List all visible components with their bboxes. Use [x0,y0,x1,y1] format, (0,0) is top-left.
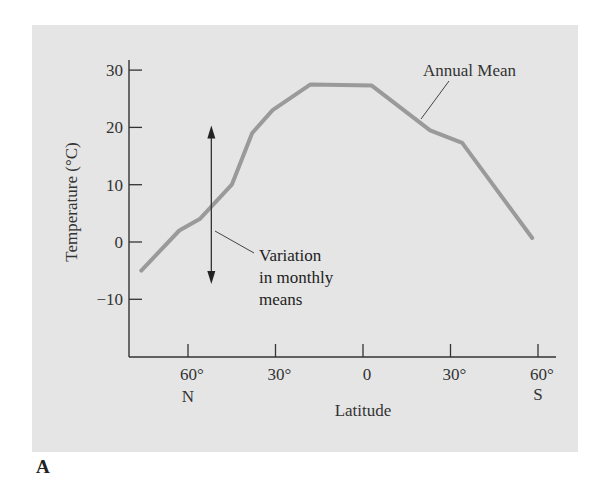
y-tick-label: 20 [106,118,123,137]
annual-mean-line [141,84,532,270]
x-tick-label: 30° [443,365,467,384]
x-axis-title: Latitude [335,401,392,420]
annual-mean-label: Annual Mean [423,61,517,80]
arrow-down-icon [207,271,215,284]
variation-label-line3: means [259,290,302,309]
y-tick-label: 10 [106,176,123,195]
x-tick-label: 30° [268,365,292,384]
y-axis-title: Temperature (°C) [62,142,81,261]
axis-ticks: 3020100−1060°30°030°60° [96,61,554,384]
arrow-up-icon [207,125,215,138]
x-tick-label: 60° [180,365,204,384]
panel-label: A [36,456,50,478]
variation-label-line1: Variation [259,246,322,265]
axes [129,60,556,357]
y-tick-label: 0 [115,233,124,252]
line-chart: 3020100−1060°30°030°60° Annual Mean Vari… [0,0,602,494]
x-tick-label: 0 [363,365,372,384]
variation-leader-line [215,231,254,253]
x-label-south: S [533,385,542,404]
variation-label-line2: in monthly [259,268,334,287]
x-tick-label: 60° [530,365,554,384]
annual-mean-leader-line [421,81,449,119]
y-tick-label: 30 [106,61,123,80]
x-label-north: N [182,387,194,406]
y-tick-label: −10 [96,290,123,309]
